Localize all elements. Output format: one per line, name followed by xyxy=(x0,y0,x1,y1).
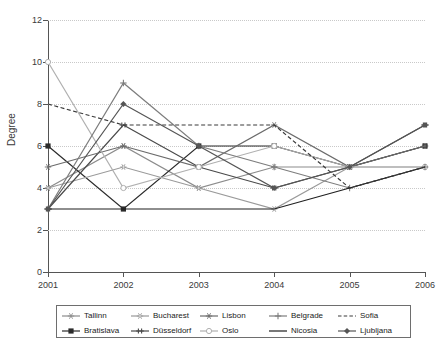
legend-label: Belgrade xyxy=(291,311,323,321)
x-axis-tick xyxy=(425,272,426,277)
legend-marker-icon xyxy=(268,311,288,321)
y-axis-tick-label: 4 xyxy=(12,183,42,193)
legend-label: Bucharest xyxy=(153,311,189,321)
series-bucharest xyxy=(45,164,428,212)
y-axis-tick-label: 12 xyxy=(12,15,42,25)
plot-area xyxy=(48,20,425,272)
y-axis-tick-label: 2 xyxy=(12,225,42,235)
legend-label: Nicosia xyxy=(291,326,317,336)
legend-item-tallinn[interactable]: Tallinn xyxy=(61,311,130,321)
legend-marker-icon xyxy=(268,326,288,336)
x-axis-tick xyxy=(199,272,200,277)
legend-item-oslo[interactable]: Oslo xyxy=(199,326,268,336)
legend: TallinnBucharestLisbonBelgradeSofiaBrati… xyxy=(56,305,411,338)
legend-marker-icon xyxy=(199,326,219,336)
legend-item-sofia[interactable]: Sofia xyxy=(337,311,406,321)
x-axis-tick xyxy=(123,272,124,277)
legend-item-bratislava[interactable]: Bratislava xyxy=(61,326,130,336)
legend-marker-icon xyxy=(199,311,219,321)
legend-label: Düsseldorf xyxy=(153,326,191,336)
x-axis-tick-label: 2005 xyxy=(340,280,360,290)
x-axis-tick-label: 2003 xyxy=(189,280,209,290)
x-axis-tick-label: 2006 xyxy=(415,280,435,290)
legend-label: Sofia xyxy=(360,311,378,321)
y-axis-tick-label: 0 xyxy=(12,267,42,277)
legend-marker-icon xyxy=(61,326,81,336)
legend-grid: TallinnBucharestLisbonBelgradeSofiaBrati… xyxy=(57,306,410,337)
x-axis-line xyxy=(48,272,425,273)
x-axis-tick xyxy=(350,272,351,277)
legend-marker-icon xyxy=(337,311,357,321)
legend-marker-icon xyxy=(61,311,81,321)
line-chart: Degree 024681012 20012002200320042005200… xyxy=(0,0,441,350)
x-axis-tick-label: 2004 xyxy=(264,280,284,290)
y-axis-tick-label: 6 xyxy=(12,141,42,151)
legend-label: Tallinn xyxy=(84,311,107,321)
legend-item-belgrade[interactable]: Belgrade xyxy=(268,311,337,321)
legend-item-d-sseldorf[interactable]: Düsseldorf xyxy=(130,326,199,336)
x-axis-tick xyxy=(48,272,49,277)
legend-marker-icon xyxy=(130,326,150,336)
y-axis-tick-label: 8 xyxy=(12,99,42,109)
legend-label: Ljubljana xyxy=(360,326,392,336)
legend-item-ljubljana[interactable]: Ljubljana xyxy=(337,326,406,336)
legend-label: Bratislava xyxy=(84,326,119,336)
legend-item-lisbon[interactable]: Lisbon xyxy=(199,311,268,321)
x-axis-tick-label: 2001 xyxy=(38,280,58,290)
series-nicosia xyxy=(48,167,425,209)
y-axis-tick-label: 10 xyxy=(12,57,42,67)
legend-marker-icon xyxy=(130,311,150,321)
legend-marker-icon xyxy=(337,326,357,336)
legend-label: Lisbon xyxy=(222,311,246,321)
series-lines xyxy=(48,20,425,272)
x-axis-tick-label: 2002 xyxy=(113,280,133,290)
x-axis-tick xyxy=(274,272,275,277)
legend-item-nicosia[interactable]: Nicosia xyxy=(268,326,337,336)
legend-label: Oslo xyxy=(222,326,238,336)
series-lisbon xyxy=(45,122,428,170)
legend-item-bucharest[interactable]: Bucharest xyxy=(130,311,199,321)
